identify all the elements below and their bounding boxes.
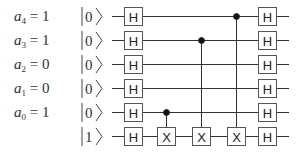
quantum-circuit: a4 = 1 a3 = 1 a2 = 0 a1 = 0 a0 = 1 0 0 0… [0,0,301,153]
svg-text:H: H [129,106,138,121]
cnot-connections [164,14,240,128]
svg-text:0: 0 [85,9,93,25]
svg-text:H: H [263,10,272,25]
label-a3: a3 = 1 [14,32,49,50]
svg-text:X: X [197,130,206,145]
row-labels: a4 = 1 a3 = 1 a2 = 0 a1 = 0 a0 = 1 [14,8,49,122]
svg-text:X: X [162,130,171,145]
svg-text:1: 1 [85,129,93,145]
svg-text:H: H [129,82,138,97]
hadamard-column-1 [125,8,143,146]
label-a4: a4 = 1 [14,8,49,26]
svg-text:H: H [263,130,272,145]
svg-text:H: H [263,106,272,121]
svg-text:H: H [129,130,138,145]
kets [82,7,102,146]
svg-text:H: H [263,82,272,97]
svg-text:H: H [263,34,272,49]
label-a2: a2 = 0 [14,56,49,74]
svg-text:H: H [129,34,138,49]
label-a0: a0 = 1 [14,104,49,122]
hadamard-column-2 [259,8,277,146]
control-dot [199,38,205,44]
svg-text:0: 0 [85,81,93,97]
ket-values: 0 0 0 0 0 1 [85,9,93,145]
svg-text:H: H [129,10,138,25]
svg-text:0: 0 [85,105,93,121]
svg-text:H: H [263,58,272,73]
control-dot [234,14,240,20]
control-dot [164,110,170,116]
svg-text:0: 0 [85,33,93,49]
svg-text:H: H [129,58,138,73]
svg-text:X: X [232,130,241,145]
hadamard-column-2-labels: H H H H H H [263,10,272,145]
label-a1: a1 = 0 [14,80,49,98]
hadamard-column-1-labels: H H H H H H [129,10,138,145]
svg-text:0: 0 [85,57,93,73]
